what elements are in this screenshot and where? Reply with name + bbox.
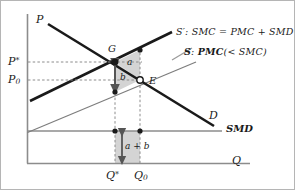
point-q0-on-smc-dot bbox=[137, 47, 142, 52]
quantity-tick-q-star-main: Q bbox=[106, 169, 115, 182]
x-axis-label: Q bbox=[232, 155, 241, 166]
legend-supply-social-body: SMC = PMC + SMD bbox=[192, 26, 294, 37]
externality-diagram: P Q P* P0 Q* Q0 G E D SMD S′: SMC = PMC … bbox=[0, 0, 295, 190]
point-G-dot bbox=[112, 59, 119, 66]
point-q0-on-smd-dot bbox=[137, 128, 142, 133]
quantity-tick-q-zero-main: Q bbox=[134, 169, 143, 182]
price-tick-p-star: P* bbox=[8, 56, 19, 67]
quantity-tick-q-star: Q* bbox=[106, 170, 119, 181]
quantity-tick-q-star-sup: * bbox=[115, 170, 119, 179]
curve-label-smd: SMD bbox=[226, 124, 253, 134]
area-label-b: b bbox=[120, 73, 126, 82]
price-tick-p-zero: P0 bbox=[8, 74, 20, 86]
legend-entry-supply-private: S: PMC(< SMC) bbox=[184, 47, 267, 57]
curve-label-demand: D bbox=[209, 110, 218, 121]
legend-supply-private-separator: : bbox=[191, 46, 194, 57]
legend-supply-social-name: S bbox=[176, 26, 183, 37]
area-label-a: a bbox=[127, 58, 132, 67]
point-label-G: G bbox=[108, 44, 116, 54]
legend-supply-social-separator: : bbox=[185, 26, 188, 37]
point-q-star-on-smd-dot bbox=[112, 128, 117, 133]
area-label-a-plus-b: a + b bbox=[125, 142, 149, 151]
legend-entry-supply-social: S′: SMC = PMC + SMD bbox=[176, 27, 293, 37]
quantity-tick-q-zero: Q0 bbox=[134, 170, 148, 182]
point-label-E: E bbox=[149, 76, 156, 86]
point-E-dot bbox=[137, 77, 143, 83]
legend-supply-private-qualifier: (< SMC) bbox=[224, 46, 267, 57]
quantity-tick-q-zero-sub: 0 bbox=[143, 173, 148, 182]
price-tick-p-zero-sub: 0 bbox=[15, 77, 20, 86]
legend-supply-private-body: PMC bbox=[198, 46, 224, 57]
point-q-star-on-pmc-dot bbox=[112, 89, 117, 94]
price-tick-p-star-sup: * bbox=[15, 56, 19, 65]
legend-supply-private-name: S bbox=[184, 46, 191, 57]
y-axis-label: P bbox=[36, 14, 43, 25]
